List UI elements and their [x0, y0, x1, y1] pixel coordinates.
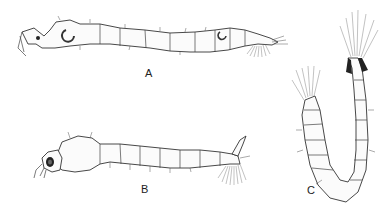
- label-b: B: [141, 183, 148, 195]
- specimen-c-drawing: [292, 10, 378, 202]
- specimen-b-drawing: [34, 132, 250, 185]
- illustration-drawing: [0, 0, 389, 209]
- label-a: A: [145, 67, 152, 79]
- label-c: C: [307, 184, 315, 196]
- specimen-a-drawing: [18, 16, 288, 57]
- eye-icon: [36, 36, 40, 40]
- larvae-illustration: A B C: [0, 0, 389, 209]
- siphon: [232, 136, 246, 156]
